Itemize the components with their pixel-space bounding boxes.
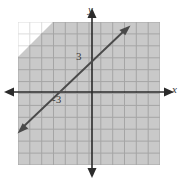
x-intercept-tick-label: -3 xyxy=(52,94,61,105)
coordinate-plane-figure: x y 3 -3 xyxy=(0,0,185,178)
y-intercept-tick-label: 3 xyxy=(76,51,82,62)
shaded-solution-region xyxy=(18,22,160,165)
graph-canvas xyxy=(0,0,185,178)
x-axis-label: x xyxy=(172,84,177,95)
y-axis-label: y xyxy=(88,4,93,15)
